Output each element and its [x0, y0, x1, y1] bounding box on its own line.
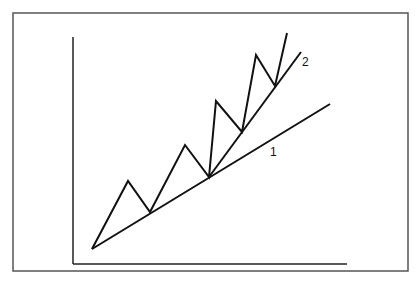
trendline-2: [209, 52, 301, 177]
label-line-2: 2: [302, 55, 309, 69]
price-zigzag: [92, 33, 287, 249]
label-line-1: 1: [270, 145, 277, 159]
trendline-1: [92, 104, 330, 249]
trend-diagram: 1 2: [0, 0, 417, 295]
